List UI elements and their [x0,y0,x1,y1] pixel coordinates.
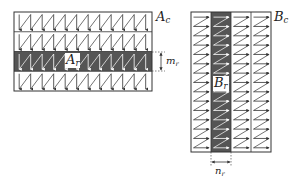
matrix-a-c [14,12,152,91]
column-block [234,17,250,148]
row-block [19,34,146,49]
b-r-main: B [214,75,224,90]
a-r-main: A [66,52,75,67]
column-block [254,17,270,148]
m-r-sub: r [175,60,178,68]
row-block [19,74,146,89]
b-r-sub: r [224,81,228,91]
matrix-a-c-label: Ac [156,10,170,25]
diagram-canvas [0,0,299,180]
block-a-r-label: Ar [65,53,80,68]
row-block [19,15,146,30]
a-c-main: A [156,9,165,24]
a-r-sub: r [75,58,79,68]
column-block [194,17,210,148]
block-b-r-label: Br [213,76,229,91]
m-r-dimension-marker [152,52,165,71]
n-r-dimension-marker [211,152,231,166]
m-r-label: mr [166,56,179,67]
row-a-r-highlighted [14,52,152,72]
matrix-b-c [191,12,271,152]
matrix-b-c-label: Bc [274,10,288,25]
n-r-label: nr [215,166,225,177]
n-r-sub: r [221,170,224,178]
b-c-main: B [274,9,284,24]
a-c-sub: c [165,15,170,25]
b-c-sub: c [284,15,289,25]
